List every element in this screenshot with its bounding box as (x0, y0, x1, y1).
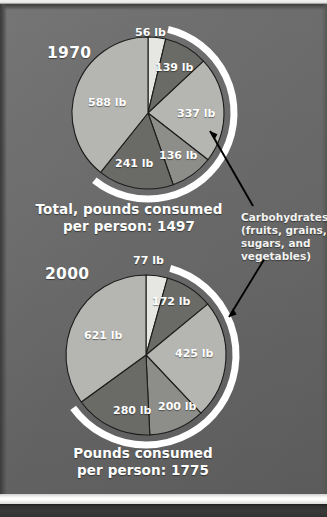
figure-root: 1970 56 lb 139 lb 337 lb 136 lb 241 lb 5… (0, 0, 327, 517)
slice-label-2000-425: 425 lb (175, 348, 213, 361)
caption-1970-line2: per person: 1497 (26, 219, 232, 235)
leader-line-2000 (229, 258, 265, 317)
slice-label-1970-139: 139 lb (155, 62, 193, 75)
caption-2000-line2: per person: 1775 (40, 463, 246, 479)
slice-label-2000-280: 280 lb (113, 405, 151, 418)
white-separator-band (0, 494, 327, 504)
slice-label-1970-136: 136 lb (159, 150, 197, 163)
carbohydrates-callout-line2: (fruits, grains, (241, 224, 327, 237)
year-label-2000: 2000 (45, 265, 89, 283)
slice-label-2000-200: 200 lb (158, 401, 196, 414)
slice-label-1970-56: 56 lb (135, 27, 166, 40)
slice-label-2000-621: 621 lb (84, 330, 122, 343)
slice-label-2000-172: 172 lb (152, 296, 190, 309)
carbohydrates-callout-line1: Carbohydrates (241, 211, 327, 224)
bottom-dark-strip (0, 504, 327, 517)
caption-1970-line1: Total, pounds consumed (26, 202, 232, 218)
slice-label-1970-337: 337 lb (177, 108, 215, 121)
slice-label-2000-77: 77 lb (133, 255, 164, 268)
year-label-1970: 1970 (47, 44, 91, 62)
slice-label-1970-588: 588 lb (88, 97, 126, 110)
slice-label-1970-241: 241 lb (115, 158, 153, 171)
caption-2000-line1: Pounds consumed (40, 446, 246, 462)
carbohydrates-callout-line3: sugars, and (241, 237, 310, 250)
leader-arrowhead-2000 (229, 308, 237, 317)
carbohydrates-callout-line4: vegetables) (241, 250, 311, 263)
